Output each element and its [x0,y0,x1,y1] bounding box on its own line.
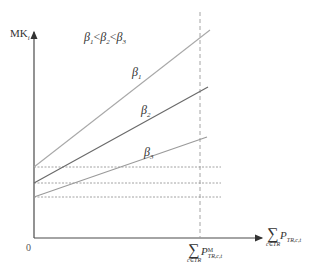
marker-sum: ∑ c∈TR [187,242,201,263]
cond-lt2: < [110,30,117,44]
beta1-label: β1 [132,66,141,81]
marker-label-main: P [201,245,208,257]
x-axis-label-main: P [280,229,287,241]
beta1-line [34,30,210,167]
marker-sum-index: c∈TR [187,257,201,263]
x-axis-sum-index: c∈TR [266,241,280,247]
marker-label: ∑ c∈TR P M TR,c,t [187,242,222,263]
y-axis-label: MKi [10,28,30,42]
cond-beta3-sub: 3 [123,38,127,46]
marker-label-sub: TR,c,t [208,253,222,259]
x-axis-sum: ∑ c∈TR [266,226,280,247]
beta3-label-sub: 3 [150,153,154,161]
beta2-label-sub: 2 [147,111,151,119]
x-axis-label: ∑ c∈TR PTR,c,t [266,226,301,247]
condition-label: β1<β2<β3 [84,31,126,46]
x-axis-label-sub: TR,c,t [287,237,301,243]
y-axis-label-main: MK [10,27,28,39]
beta3-label: β3 [144,146,153,161]
sigma-icon: ∑ [267,225,278,242]
beta2-line [34,87,208,183]
beta2-label: β2 [141,104,150,119]
y-axis-label-sub: i [28,34,30,42]
origin-label: 0 [26,243,31,253]
beta1-label-sub: 1 [138,73,142,81]
sigma-icon: ∑ [188,241,199,258]
